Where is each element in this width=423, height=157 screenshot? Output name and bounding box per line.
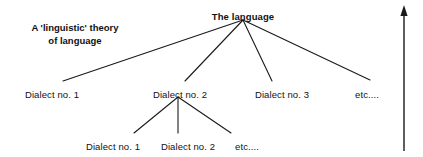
- edge-root-to-d3: [243, 20, 272, 81]
- node-etc1: etc....: [355, 89, 379, 101]
- node-etc2: etc....: [235, 141, 259, 153]
- node-root: The language: [212, 11, 274, 23]
- theory-caption: A 'linguistic' theory of language: [31, 22, 118, 47]
- edge-root-to-etc1: [243, 20, 370, 80]
- node-d1: Dialect no. 1: [25, 89, 79, 101]
- node-d2: Dialect no. 2: [153, 89, 207, 101]
- edge-d2-to-etc2: [178, 97, 231, 133]
- node-d3: Dialect no. 3: [255, 89, 309, 101]
- node-d2d1: Dialect no. 1: [86, 141, 140, 153]
- edge-root-to-d2: [185, 20, 243, 81]
- diagram-canvas: A 'linguistic' theory of language The la…: [0, 0, 423, 157]
- edge-d2-to-d2d1: [134, 97, 178, 133]
- node-d2d2: Dialect no. 2: [161, 141, 215, 153]
- upward-arrow-head-icon: [400, 5, 407, 16]
